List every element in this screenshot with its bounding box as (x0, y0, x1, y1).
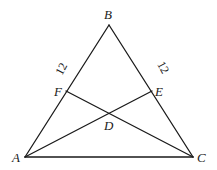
segment-cf (66, 91, 193, 157)
label-a: A (11, 150, 20, 165)
label-c: C (197, 150, 206, 165)
label-d: D (103, 118, 114, 133)
measure-be: 12 (154, 59, 172, 76)
triangle-diagram: B A C F E D 12 12 (0, 0, 217, 170)
label-b: B (104, 7, 112, 22)
label-e: E (154, 84, 163, 99)
measure-bf: 12 (52, 60, 70, 77)
label-f: F (53, 84, 63, 99)
segment-ae (25, 91, 152, 157)
